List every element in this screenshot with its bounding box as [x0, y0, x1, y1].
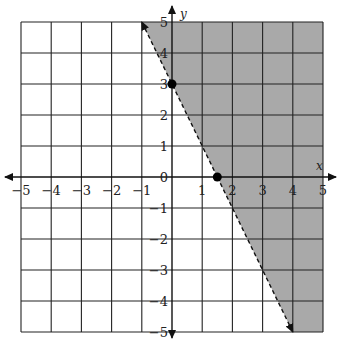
y-tick-label: 1 — [160, 139, 168, 154]
y-tick-label: 3 — [160, 77, 168, 92]
point-marker — [213, 173, 222, 182]
x-tick-label: 4 — [289, 183, 297, 198]
y-axis-label: y — [179, 7, 187, 21]
x-tick-label: −3 — [72, 183, 91, 198]
y-tick-label: −4 — [149, 294, 168, 309]
x-axis-label: x — [316, 159, 323, 173]
y-tick-label: −1 — [149, 201, 168, 216]
y-tick-label: 0 — [160, 170, 168, 185]
x-tick-label: 1 — [198, 183, 206, 198]
x-tick-label: −5 — [11, 183, 30, 198]
y-tick-label: 4 — [160, 46, 168, 61]
x-tick-label: −4 — [42, 183, 61, 198]
y-tick-label: 5 — [160, 15, 168, 30]
y-tick-label: −2 — [149, 232, 168, 247]
y-tick-label: −5 — [149, 325, 168, 340]
y-tick-label: −3 — [149, 263, 168, 278]
point-marker — [168, 80, 177, 89]
y-tick-label: 2 — [160, 108, 168, 123]
x-tick-label: 5 — [319, 183, 327, 198]
x-tick-label: −2 — [102, 183, 121, 198]
x-tick-label: −1 — [132, 183, 151, 198]
x-tick-label: 2 — [228, 183, 236, 198]
x-tick-label: 3 — [258, 183, 266, 198]
coordinate-plane: −5−4−3−2−112345−5−4−3−2−1012345 x y — [0, 0, 344, 355]
